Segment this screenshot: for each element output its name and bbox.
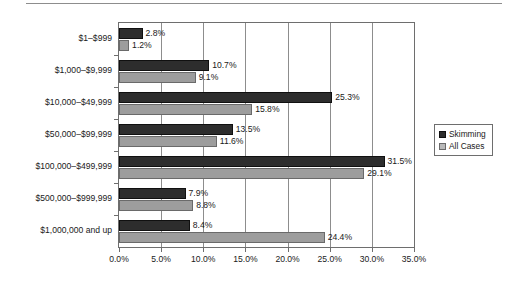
bar-all-cases bbox=[119, 104, 252, 115]
bar-value-label: 8.8% bbox=[196, 200, 216, 211]
legend-label-skimming: Skimming bbox=[449, 129, 486, 139]
bar-value-label: 8.4% bbox=[193, 220, 213, 231]
x-tick-label: 25.0% bbox=[318, 254, 342, 265]
x-tick-mark bbox=[161, 248, 162, 252]
category-tick-mark bbox=[114, 119, 118, 120]
bar-all-cases bbox=[119, 168, 364, 179]
bar-value-label: 25.3% bbox=[335, 92, 359, 103]
bar-value-label: 13.5% bbox=[236, 124, 260, 135]
x-tick-label: 0.0% bbox=[109, 254, 129, 265]
category-tick-mark bbox=[114, 55, 118, 56]
bar-value-label: 9.1% bbox=[199, 72, 219, 83]
category-label: $100,000–$499,999 bbox=[0, 161, 112, 171]
bar-skimming bbox=[119, 188, 186, 199]
bar-skimming bbox=[119, 220, 190, 231]
bar-skimming bbox=[119, 60, 209, 71]
x-tick-mark bbox=[372, 248, 373, 252]
legend-item-skimming: Skimming bbox=[439, 128, 488, 140]
x-tick-label: 20.0% bbox=[275, 254, 299, 265]
bar-all-cases bbox=[119, 232, 325, 243]
x-tick-mark bbox=[414, 248, 415, 252]
bar-value-label: 15.8% bbox=[255, 104, 279, 115]
bar-chart: $1–$999$1,000–$9,999$10,000–$49,999$50,0… bbox=[0, 0, 516, 289]
x-tick-mark bbox=[203, 248, 204, 252]
header-divider bbox=[26, 3, 502, 4]
x-tick-label: 5.0% bbox=[151, 254, 171, 265]
category-tick-mark bbox=[114, 87, 118, 88]
bar-all-cases bbox=[119, 136, 217, 147]
category-axis-labels: $1–$999$1,000–$9,999$10,000–$49,999$50,0… bbox=[0, 22, 112, 248]
x-tick-label: 15.0% bbox=[233, 254, 257, 265]
category-label: $1–$999 bbox=[0, 33, 112, 43]
bar-skimming bbox=[119, 28, 143, 39]
bar-all-cases bbox=[119, 40, 129, 51]
bar-value-label: 7.9% bbox=[189, 188, 209, 199]
bar-value-label: 29.1% bbox=[367, 168, 391, 179]
category-label: $10,000–$49,999 bbox=[0, 97, 112, 107]
legend-label-all-cases: All Cases bbox=[449, 141, 484, 151]
category-label: $50,000–$99,999 bbox=[0, 129, 112, 139]
legend-swatch-all-cases-icon bbox=[439, 143, 446, 150]
x-tick-mark bbox=[245, 248, 246, 252]
bar-all-cases bbox=[119, 200, 193, 211]
chart-legend: Skimming All Cases bbox=[434, 124, 493, 156]
x-tick-label: 10.0% bbox=[191, 254, 215, 265]
bar-skimming bbox=[119, 124, 233, 135]
category-label: $500,000–$999,999 bbox=[0, 193, 112, 203]
category-tick-mark bbox=[114, 183, 118, 184]
category-tick-mark bbox=[114, 151, 118, 152]
bar-value-label: 10.7% bbox=[212, 60, 236, 71]
category-tick-mark bbox=[114, 215, 118, 216]
legend-swatch-skimming-icon bbox=[439, 131, 446, 138]
category-label: $1,000–$9,999 bbox=[0, 65, 112, 75]
bar-value-label: 1.2% bbox=[132, 40, 152, 51]
legend-item-all-cases: All Cases bbox=[439, 140, 488, 152]
bars-layer: 2.8%1.2%10.7%9.1%25.3%15.8%13.5%11.6%31.… bbox=[119, 23, 414, 247]
x-tick-label: 35.0% bbox=[402, 254, 426, 265]
category-label: $1,000,000 and up bbox=[0, 225, 112, 235]
bar-skimming bbox=[119, 92, 332, 103]
bar-value-label: 24.4% bbox=[328, 232, 352, 243]
x-tick-mark bbox=[288, 248, 289, 252]
bar-value-label: 2.8% bbox=[146, 28, 166, 39]
x-tick-label: 30.0% bbox=[360, 254, 384, 265]
x-tick-mark bbox=[330, 248, 331, 252]
bar-all-cases bbox=[119, 72, 196, 83]
bar-value-label: 11.6% bbox=[220, 136, 244, 147]
bar-value-label: 31.5% bbox=[388, 156, 412, 167]
x-tick-mark bbox=[119, 248, 120, 252]
bar-skimming bbox=[119, 156, 385, 167]
